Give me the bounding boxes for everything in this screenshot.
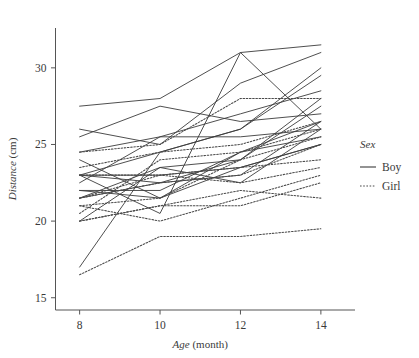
legend-label-girl[interactable]: Girl [382, 180, 401, 192]
legend: SexBoyGirl [360, 138, 401, 192]
legend-label-boy[interactable]: Boy [382, 161, 401, 174]
x-tick-label-8: 8 [77, 319, 83, 331]
x-tick-label-10: 10 [154, 319, 166, 331]
y-tick-label-30: 30 [35, 62, 47, 74]
x-tick-label-12: 12 [235, 319, 247, 331]
y-axis-title-italic: Distance [6, 161, 18, 201]
y-tick-label-20: 20 [35, 215, 47, 227]
series-line-f04 [80, 121, 321, 167]
legend-title: Sex [360, 138, 375, 150]
series-line-m15 [80, 68, 321, 175]
spaghetti-plot: 152025308101214 Age (month)Distance (cm)… [0, 0, 419, 358]
axis-titles-layer: Age (month)Distance (cm) [6, 137, 228, 351]
x-axis-title-italic: Age [172, 338, 190, 350]
y-tick-label-25: 25 [35, 138, 47, 150]
x-axis-title: Age (month) [172, 338, 229, 351]
y-axis-title: Distance (cm) [6, 137, 19, 201]
y-axis-title-rest: (cm) [6, 137, 19, 161]
y-tick-label-15: 15 [35, 292, 47, 304]
x-tick-label-14: 14 [315, 319, 327, 331]
series-line-f10 [80, 229, 321, 275]
chart-container: 152025308101214 Age (month)Distance (cm)… [0, 0, 419, 358]
x-axis-title-rest: (month) [190, 338, 229, 351]
data-series-layer [80, 45, 321, 275]
series-line-m10 [80, 45, 321, 106]
tick-labels-layer: 152025308101214 [35, 62, 327, 331]
